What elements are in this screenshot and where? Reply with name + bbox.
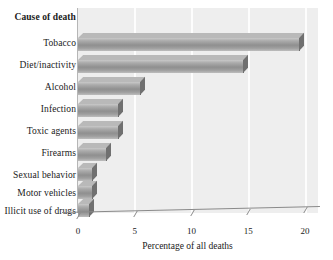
bar-diet-inactivity [78,55,249,68]
axis-header-cause-of-death: Cause of death [0,12,76,22]
bar-front-face [78,82,141,95]
bar-illicit-use-of-drugs [78,199,95,212]
bar-toxic-agents [78,121,124,134]
x-axis-title: Percentage of all deaths [0,241,333,251]
tick-label-0: 0 [66,226,90,236]
bar-front-face [78,186,93,199]
tick-label-15: 15 [236,226,260,236]
bar-tobacco [78,33,305,46]
category-label-infection: Infection [0,104,76,114]
tick-label-10: 10 [180,226,204,236]
bar-front-face [78,148,107,161]
category-label-tobacco: Tobacco [0,38,76,48]
category-label-alcohol: Alcohol [0,82,76,92]
bar-front-face [78,60,244,73]
bar-front-face [78,104,119,117]
category-label-firearms: Firearms [0,148,76,158]
category-label-toxic-agents: Toxic agents [0,126,76,136]
tick-label-20: 20 [293,226,317,236]
bar-chart: Cause of death Tobacco Diet/inactivity A… [0,0,333,260]
bar-infection [78,99,124,112]
bar-firearms [78,143,112,156]
bar-front-face [78,38,300,51]
bar-front-face [78,126,119,139]
bar-alcohol [78,77,146,90]
tick-label-5: 5 [123,226,147,236]
category-label-motor-vehicles: Motor vehicles [0,188,76,198]
bar-motor-vehicles [78,181,98,194]
bar-sexual-behavior [78,163,98,176]
category-label-diet-inactivity: Diet/inactivity [0,60,76,70]
bar-front-face [78,168,93,181]
category-label-sexual-behavior: Sexual behavior [0,170,76,180]
